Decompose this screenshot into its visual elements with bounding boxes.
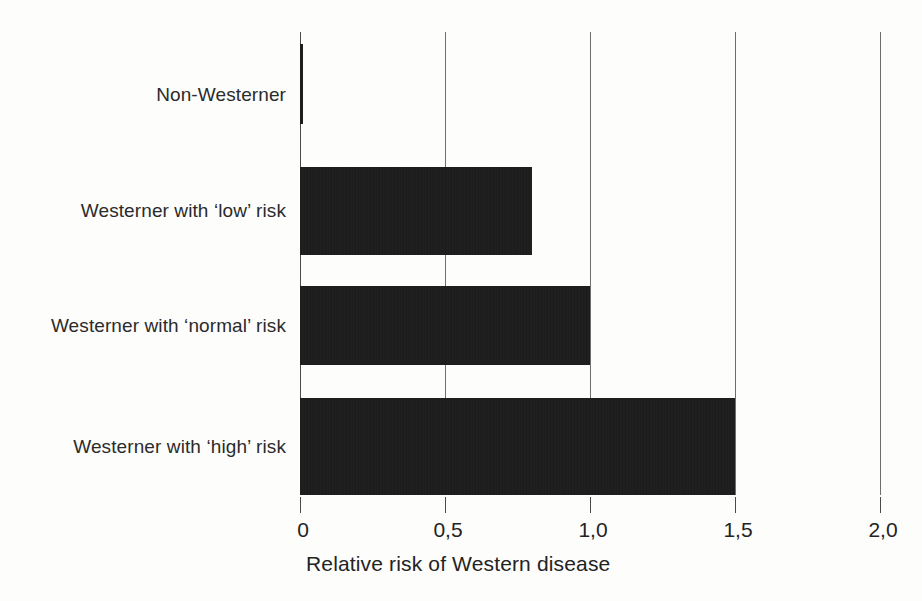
category-label-westerner-high-risk: Westerner with ‘high’ risk xyxy=(73,436,286,458)
tick-label-1-5: 1,5 xyxy=(723,518,752,542)
tick-mark-0 xyxy=(300,497,301,513)
tick-label-0: 0 xyxy=(297,518,309,542)
category-label-westerner-normal-risk: Westerner with ‘normal’ risk xyxy=(51,315,286,337)
tick-mark-2-0 xyxy=(880,497,881,513)
tick-mark-1-5 xyxy=(735,497,736,513)
gridline-2-0 xyxy=(880,32,881,495)
category-label-westerner-low-risk: Westerner with ‘low’ risk xyxy=(81,200,286,222)
x-axis-title: Relative risk of Western disease xyxy=(306,552,610,576)
category-label-non-westerner: Non-Westerner xyxy=(156,84,286,106)
tick-mark-0-5 xyxy=(445,497,446,513)
bar-westerner-high-risk xyxy=(300,398,735,495)
bar-westerner-normal-risk xyxy=(300,286,590,365)
tick-label-0-5: 0,5 xyxy=(433,518,462,542)
bar-westerner-low-risk xyxy=(300,167,532,255)
tick-mark-1-0 xyxy=(590,497,591,513)
bar-chart: Non-Westerner Westerner with ‘low’ risk … xyxy=(0,0,922,601)
tick-label-1-0: 1,0 xyxy=(578,518,607,542)
tick-label-2-0: 2,0 xyxy=(868,518,897,542)
gridline-1-5 xyxy=(735,32,736,495)
bar-non-westerner xyxy=(300,44,303,124)
